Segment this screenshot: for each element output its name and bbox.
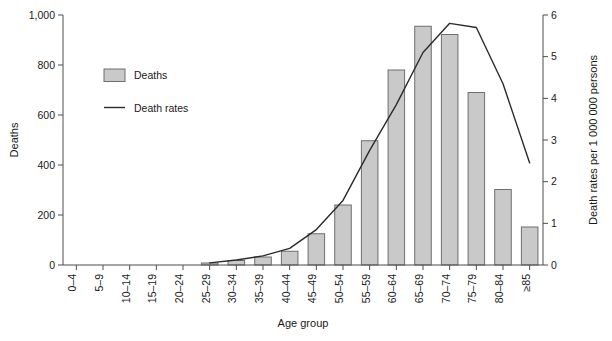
legend-swatch-deaths	[104, 69, 125, 82]
deaths-and-death-rates-chart: 02004006008001,000 0123456 0–45–910–1415…	[0, 0, 612, 341]
bar	[495, 190, 512, 266]
y2-axis-tick-label: 1	[551, 217, 557, 229]
bar	[521, 227, 538, 265]
x-axis-category-label: 10–14	[120, 274, 132, 303]
bar	[441, 35, 458, 266]
bar	[308, 234, 325, 265]
y2-axis-tick-label: 3	[551, 134, 557, 146]
x-axis-category-label: 70–74	[440, 274, 452, 303]
chart-container: 02004006008001,000 0123456 0–45–910–1415…	[0, 0, 612, 341]
x-axis-category-label: 15–19	[146, 274, 158, 303]
bar	[281, 251, 298, 265]
legend-label-deaths: Deaths	[134, 69, 167, 81]
x-axis-category-label: 60–64	[386, 274, 398, 303]
y2-axis-tick-label: 2	[551, 175, 557, 187]
bar	[335, 205, 352, 265]
x-axis-category-label: 55–59	[360, 274, 372, 303]
x-axis-title: Age group	[278, 317, 329, 329]
x-axis-category-label: 50–54	[333, 274, 345, 303]
x-axis-category-label: 30–34	[226, 274, 238, 303]
y-axis-tick-label: 0	[49, 259, 55, 271]
x-axis-category-label: 80–84	[493, 274, 505, 303]
y2-axis-tick-label: 6	[551, 9, 557, 21]
x-axis-category-label: 65–69	[413, 274, 425, 303]
x-axis-category-label: 5–9	[93, 274, 105, 292]
bar	[255, 257, 272, 265]
y2-axis-tick-label: 5	[551, 50, 557, 62]
legend-label-death-rates: Death rates	[134, 102, 188, 114]
y-axis-tick-label: 200	[37, 209, 55, 221]
x-axis-category-label: 45–49	[306, 274, 318, 303]
bar	[361, 141, 378, 265]
y-axis-tick-label: 800	[37, 59, 55, 71]
bar	[415, 26, 432, 265]
x-axis-category-label: 20–24	[173, 274, 185, 303]
bar	[388, 70, 405, 265]
x-axis-category-label: 25–29	[200, 274, 212, 303]
x-axis-category-label: 0–4	[66, 274, 78, 292]
x-axis-category-label: 40–44	[280, 274, 292, 303]
y-axis-title: Deaths	[8, 122, 20, 157]
y-axis-tick-label: 1,000	[29, 9, 55, 21]
y-axis-tick-label: 600	[37, 109, 55, 121]
x-axis-category-label: ≥85	[520, 274, 532, 292]
bar	[468, 93, 485, 266]
x-axis-category-label: 35–39	[253, 274, 265, 303]
y2-axis-title: Death rates per 1 000 000 persons	[587, 55, 599, 226]
y-axis-tick-label: 400	[37, 159, 55, 171]
y2-axis-tick-label: 4	[551, 92, 557, 104]
x-axis-category-label: 75–79	[466, 274, 478, 303]
y2-axis-tick-label: 0	[551, 259, 557, 271]
